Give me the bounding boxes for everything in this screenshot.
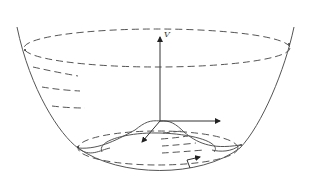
tangent-arrow-stem	[187, 160, 190, 168]
level-contour-3	[52, 106, 85, 108]
hump-shading-4	[162, 150, 204, 153]
paraboloid-bowl	[17, 27, 294, 171]
axis-label-v: V	[164, 30, 171, 39]
level-contour-1	[33, 67, 78, 76]
rim-point-right	[288, 43, 290, 45]
level-contour-2	[42, 87, 80, 91]
tangent-arrow	[187, 157, 200, 160]
bowl-bottom-arc	[78, 148, 110, 153]
minimum-point-right	[240, 144, 242, 146]
hump-shading-2	[161, 136, 188, 139]
minimum-point-left	[77, 146, 79, 148]
mexican-hat-diagram: V	[0, 0, 310, 185]
minimum-ring	[78, 131, 238, 165]
central-hump	[78, 121, 240, 148]
horizontal-axis-front	[142, 121, 160, 142]
top-rim-ellipse	[24, 29, 290, 67]
inner-ring	[101, 133, 215, 152]
hump-shading-3	[162, 143, 196, 146]
rim-point-left	[24, 49, 26, 51]
